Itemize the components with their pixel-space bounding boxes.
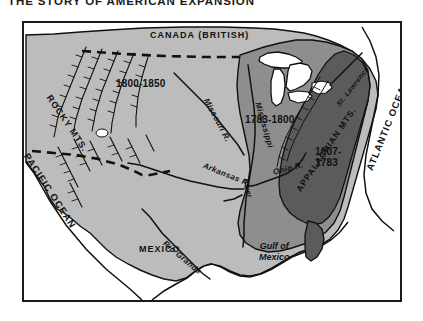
great-salt-lake	[96, 129, 108, 137]
map-canvas: CANADA (BRITISH) 1800-1850 1783-1800 160…	[24, 23, 400, 300]
map-frame: CANADA (BRITISH) 1800-1850 1783-1800 160…	[22, 21, 402, 302]
map-page: THE STORY OF AMERICAN EXPANSION	[0, 0, 423, 321]
map-illustration	[24, 23, 400, 300]
page-title: THE STORY OF AMERICAN EXPANSION	[8, 0, 418, 11]
